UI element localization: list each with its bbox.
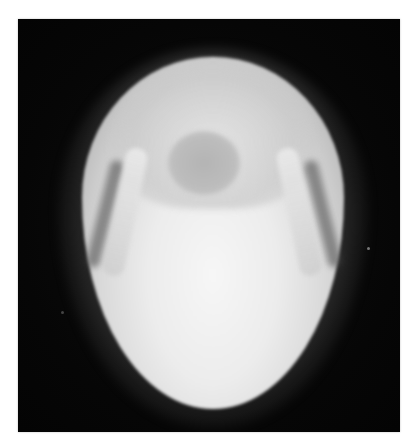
artifact-speck bbox=[61, 311, 64, 314]
xray-film bbox=[18, 19, 400, 432]
artifact-speck bbox=[367, 247, 370, 250]
foramen-magnum bbox=[168, 131, 240, 195]
